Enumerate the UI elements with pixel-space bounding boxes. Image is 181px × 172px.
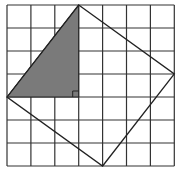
grid-diagram [0,0,181,172]
